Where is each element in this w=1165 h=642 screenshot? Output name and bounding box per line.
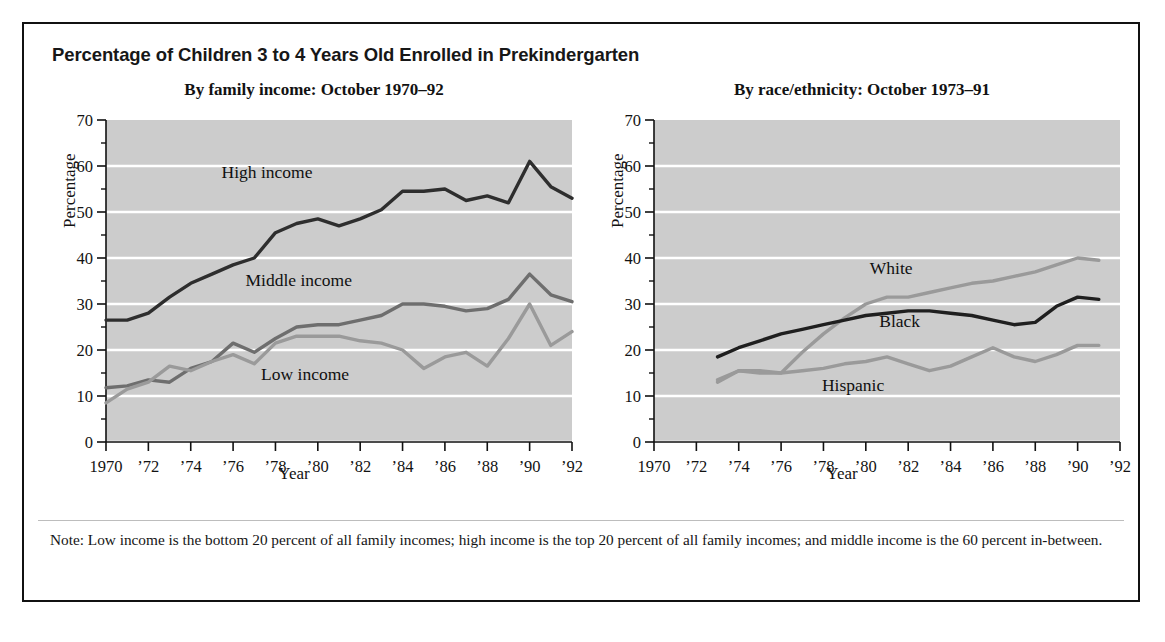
y-tick-label: 20	[77, 341, 94, 360]
plot-area-right: 0102030405060701970’72’74’76’78’80’82’84…	[592, 112, 1132, 512]
x-tick-label: ’90	[519, 457, 541, 476]
x-tick-label: ’86	[434, 457, 456, 476]
x-tick-label: ’78	[812, 457, 834, 476]
x-tick-label: ’80	[855, 457, 877, 476]
y-tick-label: 10	[77, 387, 94, 406]
chart-subtitle-left: By family income: October 1970–92	[44, 80, 584, 100]
x-tick-label: ’74	[728, 457, 750, 476]
y-tick-label: 50	[625, 203, 642, 222]
x-tick-label: ’92	[561, 457, 583, 476]
x-tick-label: ’76	[222, 457, 244, 476]
plot-area-left: 0102030405060701970’72’74’76’78’80’82’84…	[44, 112, 584, 512]
figure-frame: Percentage of Children 3 to 4 Years Old …	[22, 22, 1140, 602]
x-tick-label: ’88	[476, 457, 498, 476]
x-tick-label: ’84	[940, 457, 962, 476]
y-tick-label: 20	[625, 341, 642, 360]
x-tick-label: ’72	[137, 457, 159, 476]
chart-svg-right: 0102030405060701970’72’74’76’78’80’82’84…	[592, 112, 1132, 512]
x-tick-label: 1970	[638, 457, 671, 476]
x-tick-label: ’90	[1067, 457, 1089, 476]
x-tick-label: 1970	[90, 457, 123, 476]
x-tick-label: ’88	[1024, 457, 1046, 476]
x-tick-label: ’86	[982, 457, 1004, 476]
x-tick-label: ’84	[392, 457, 414, 476]
chart-panel-family-income: By family income: October 1970–92 Percen…	[44, 80, 584, 550]
x-tick-label: ’80	[307, 457, 329, 476]
y-tick-label: 60	[77, 157, 94, 176]
chart-panel-race-ethnicity: By race/ethnicity: October 1973–91 Perce…	[592, 80, 1132, 550]
figure-note: Note: Low income is the bottom 20 percen…	[50, 530, 1110, 550]
x-tick-label: ’72	[685, 457, 707, 476]
y-tick-label: 30	[77, 295, 94, 314]
chart-subtitle-right: By race/ethnicity: October 1973–91	[592, 80, 1132, 100]
x-tick-label: ’78	[264, 457, 286, 476]
y-tick-label: 70	[77, 112, 94, 130]
series-label: White	[870, 258, 913, 278]
series-label: Low income	[261, 364, 349, 384]
y-tick-label: 10	[625, 387, 642, 406]
y-tick-label: 70	[625, 112, 642, 130]
note-divider	[38, 520, 1124, 521]
x-tick-label: ’76	[770, 457, 792, 476]
y-tick-label: 0	[85, 433, 93, 452]
chart-svg-left: 0102030405060701970’72’74’76’78’80’82’84…	[44, 112, 584, 512]
y-tick-label: 60	[625, 157, 642, 176]
x-tick-label: ’74	[180, 457, 202, 476]
y-tick-label: 40	[625, 249, 642, 268]
series-label: Hispanic	[822, 375, 884, 395]
series-label: Middle income	[246, 270, 353, 290]
plot-background	[654, 120, 1120, 442]
x-tick-label: ’92	[1109, 457, 1131, 476]
y-tick-label: 50	[77, 203, 94, 222]
x-tick-label: ’82	[897, 457, 919, 476]
y-tick-label: 40	[77, 249, 94, 268]
y-tick-label: 30	[625, 295, 642, 314]
series-label: Black	[879, 311, 920, 331]
page-title: Percentage of Children 3 to 4 Years Old …	[52, 44, 639, 66]
series-label: High income	[222, 162, 313, 182]
y-tick-label: 0	[633, 433, 641, 452]
x-tick-label: ’82	[349, 457, 371, 476]
